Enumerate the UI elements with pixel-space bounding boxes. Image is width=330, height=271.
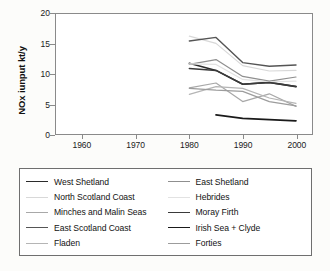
series-line-irish-sea-clyde [216,115,296,121]
y-tickmark-10 [50,74,55,75]
x-tickmark-1970 [136,135,137,139]
legend-item-hebrides[interactable]: Hebrides [168,189,306,204]
y-axis-label: NOx iunput kt/y [14,24,28,136]
x-tickmark-1960 [82,135,83,139]
legend-grid: West ShetlandEast ShetlandNorth Scotland… [26,174,305,251]
legend-item-moray-firth[interactable]: Moray Firth [168,205,306,220]
legend-label-fladen: Fladen [54,238,80,248]
legend-item-minches-and-malin-seas[interactable]: Minches and Malin Seas [26,205,164,220]
legend-swatch-east-scotland-coast [26,227,48,228]
y-tickmark-20 [50,13,55,14]
legend-label-moray-firth: Moray Firth [196,207,239,217]
legend-item-east-scotland-coast[interactable]: East Scotland Coast [26,220,164,235]
y-tick-5: 5 [28,100,50,110]
x-tick-1990: 1990 [223,140,263,150]
legend-swatch-irish-sea-clyde [168,227,190,228]
legend-swatch-fladen [26,243,48,244]
legend-item-north-scotland-coast[interactable]: North Scotland Coast [26,189,164,204]
y-tick-10: 10 [28,69,50,79]
legend-label-minches-and-malin-seas: Minches and Malin Seas [54,207,147,217]
x-tick-1970: 1970 [116,140,156,150]
legend-swatch-east-shetland [168,181,190,182]
series-line-west-shetland [189,63,296,86]
y-tick-15: 15 [28,39,50,49]
legend-item-irish-sea-clyde[interactable]: Irish Sea + Clyde [168,220,306,235]
line-chart: NOx iunput kt/y 05101520 196019701980199… [0,0,330,160]
legend-label-hebrides: Hebrides [196,192,230,202]
x-tick-1960: 1960 [62,140,102,150]
x-tickmark-1990 [243,135,244,139]
legend-swatch-moray-firth [168,212,190,213]
legend-label-east-scotland-coast: East Scotland Coast [54,223,131,233]
legend-swatch-west-shetland [26,181,48,182]
legend-label-forties: Forties [196,238,222,248]
legend-item-fladen[interactable]: Fladen [26,236,164,251]
legend-swatch-minches-and-malin-seas [26,212,48,213]
series-line-forties [189,88,296,105]
y-tick-20: 20 [28,8,50,18]
chart-page: NOx iunput kt/y 05101520 196019701980199… [0,0,330,271]
series-canvas [56,14,312,134]
legend-item-east-shetland[interactable]: East Shetland [168,174,306,189]
legend-swatch-forties [168,243,190,244]
x-tickmark-2000 [297,135,298,139]
legend-label-north-scotland-coast: North Scotland Coast [54,192,135,202]
x-tickmark-1980 [189,135,190,139]
legend-label-irish-sea-clyde: Irish Sea + Clyde [196,223,261,233]
x-tick-2000: 2000 [277,140,317,150]
legend-box: West ShetlandEast ShetlandNorth Scotland… [19,168,312,256]
legend-swatch-north-scotland-coast [26,197,48,198]
x-axis-tick-labels: 19601970198019902000 [55,140,313,158]
legend-swatch-hebrides [168,197,190,198]
legend-item-forties[interactable]: Forties [168,236,306,251]
y-tickmark-15 [50,44,55,45]
y-tickmark-5 [50,105,55,106]
y-tickmark-0 [50,135,55,136]
legend-item-west-shetland[interactable]: West Shetland [26,174,164,189]
y-axis-label-text: NOx iunput kt/y [16,46,27,115]
x-tick-1980: 1980 [169,140,209,150]
legend-label-west-shetland: West Shetland [54,177,109,187]
legend-label-east-shetland: East Shetland [196,177,249,187]
y-tick-0: 0 [28,130,50,140]
plot-area [55,13,313,135]
y-axis-tick-labels: 05101520 [28,10,50,138]
